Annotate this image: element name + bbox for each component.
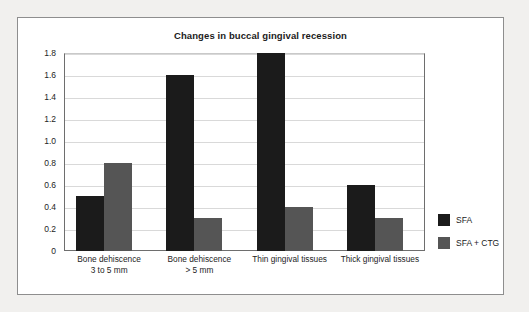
bar-sfa <box>347 185 375 251</box>
y-axis-tick-label: 0.6 <box>44 180 56 190</box>
y-axis-tick-label: 1.8 <box>44 48 56 58</box>
bar-sfa <box>76 196 104 251</box>
x-axis-tick-label: Thick gingival tissues <box>327 254 433 265</box>
chart-panel: Changes in buccal gingival recession 1.8… <box>17 17 504 295</box>
y-axis-tick-label: 1.0 <box>44 136 56 146</box>
bar-groups <box>64 53 425 251</box>
legend-item: SFA <box>438 214 499 226</box>
y-axis-tick-label: 1.6 <box>44 70 56 80</box>
bar-sfa <box>257 53 285 251</box>
bar-sfa-ctg <box>104 163 132 251</box>
y-axis-tick-label: 1.4 <box>44 92 56 102</box>
legend-swatch-icon <box>438 214 450 226</box>
bar-group <box>335 53 425 251</box>
y-axis-tick-label: 1.2 <box>44 114 56 124</box>
chart-title: Changes in buccal gingival recession <box>18 30 503 41</box>
bar-group <box>154 53 244 251</box>
legend-label: SFA + CTG <box>456 238 499 248</box>
bar-sfa <box>166 75 194 251</box>
legend-item: SFA + CTG <box>438 237 499 249</box>
y-axis-tick-label: 0.4 <box>44 202 56 212</box>
y-axis-tick-label: 0.2 <box>44 224 56 234</box>
legend-swatch-icon <box>438 237 450 249</box>
legend-label: SFA <box>456 215 472 225</box>
bar-group <box>64 53 154 251</box>
bar-group <box>245 53 335 251</box>
y-axis-tick-labels: 1.81.61.41.21.00.80.60.40.20 <box>18 53 62 251</box>
figure-container: Changes in buccal gingival recession 1.8… <box>0 0 529 312</box>
bar-sfa-ctg <box>285 207 313 251</box>
bar-sfa-ctg <box>194 218 222 251</box>
bar-sfa-ctg <box>375 218 403 251</box>
y-axis-tick-label: 0.8 <box>44 158 56 168</box>
chart-legend: SFASFA + CTG <box>438 214 499 260</box>
